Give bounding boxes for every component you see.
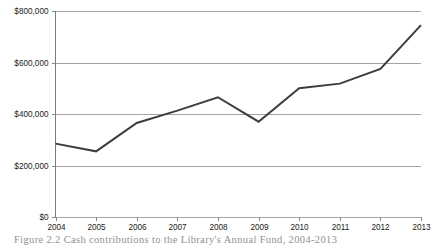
line-chart: $0$200,000$400,000$600,000$800,000 20042… bbox=[0, 0, 433, 232]
y-axis-tick-label: $200,000 bbox=[14, 162, 49, 171]
gridlines-group bbox=[52, 12, 422, 218]
y-axis-tick-labels: $0$200,000$400,000$600,000$800,000 bbox=[14, 7, 49, 222]
x-axis-tick-label: 2008 bbox=[209, 223, 228, 232]
x-axis-tick-label: 2011 bbox=[332, 223, 350, 232]
figure-caption: Figure 2.2 Cash contributions to the Lib… bbox=[0, 234, 433, 245]
y-axis-tick-label: $400,000 bbox=[14, 110, 49, 119]
x-axis-tick-label: 2004 bbox=[47, 223, 66, 232]
data-series-line bbox=[56, 25, 422, 151]
x-axis-tick-label: 2012 bbox=[371, 223, 390, 232]
figure-caption-text: Figure 2.2 Cash contributions to the Lib… bbox=[14, 234, 337, 245]
x-axis-tick-label: 2013 bbox=[412, 223, 431, 232]
figure-container: $0$200,000$400,000$600,000$800,000 20042… bbox=[0, 0, 433, 245]
x-axis-tick-labels: 2004200520062007200820092010201120122013 bbox=[47, 223, 431, 232]
x-axis-tick-label: 2006 bbox=[128, 223, 147, 232]
y-axis-tick-label: $600,000 bbox=[14, 59, 49, 68]
y-axis-tick-label: $800,000 bbox=[14, 7, 49, 16]
y-axis-tick-label: $0 bbox=[39, 213, 49, 222]
x-axis-tick-label: 2009 bbox=[250, 223, 269, 232]
x-axis-tick-label: 2007 bbox=[168, 223, 187, 232]
x-axis-tick-label: 2010 bbox=[290, 223, 309, 232]
chart-svg: $0$200,000$400,000$600,000$800,000 20042… bbox=[0, 0, 433, 232]
x-axis-tick-label: 2005 bbox=[87, 223, 106, 232]
